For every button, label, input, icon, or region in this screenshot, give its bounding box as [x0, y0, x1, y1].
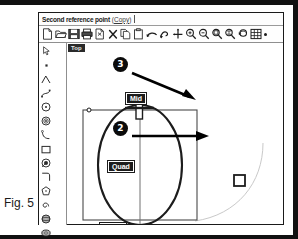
- drawing-viewport[interactable]: Top: [67, 43, 283, 224]
- zoom-previous-icon[interactable]: [236, 27, 249, 41]
- command-option-copy[interactable]: (Copy): [110, 16, 132, 23]
- undo-arrow-icon[interactable]: [145, 27, 158, 41]
- page-frame-top: [0, 0, 298, 5]
- zoom-in-icon[interactable]: [184, 27, 197, 41]
- print-icon[interactable]: [80, 27, 93, 41]
- circle-diameter-icon[interactable]: [39, 156, 53, 170]
- figure-page: Fig. 5 Second reference point (Copy): [0, 0, 298, 239]
- ellipse-icon[interactable]: [39, 114, 53, 128]
- grid-snap-icon[interactable]: [249, 27, 262, 41]
- fillet-corner-icon[interactable]: [39, 170, 53, 184]
- figure-caption: Fig. 5: [4, 196, 34, 210]
- command-prompt-text: Second reference point: [39, 16, 110, 23]
- delete-x-icon[interactable]: [106, 27, 119, 41]
- construction-arc: [195, 143, 263, 221]
- control-point-marker: [87, 108, 91, 112]
- redo-arrow-icon[interactable]: [158, 27, 171, 41]
- cad-geometry: [67, 43, 283, 224]
- circle-center-icon[interactable]: [39, 100, 53, 114]
- select-arrow-icon[interactable]: [39, 44, 53, 58]
- tool-palette: [39, 43, 67, 225]
- zoom-extents-icon[interactable]: [223, 27, 236, 41]
- new-file-icon[interactable]: [41, 27, 54, 41]
- arc-icon[interactable]: [39, 128, 53, 142]
- zoom-out-icon[interactable]: [197, 27, 210, 41]
- pan-move-icon[interactable]: [171, 27, 184, 41]
- paren-close: ): [129, 16, 131, 23]
- snap-tooltip-mid: Mid: [126, 93, 146, 104]
- polyline-icon[interactable]: [39, 72, 53, 86]
- page-frame-right: [293, 0, 298, 239]
- sphere-icon[interactable]: [39, 212, 53, 226]
- open-folder-icon[interactable]: [54, 27, 67, 41]
- main-toolbar: [39, 26, 283, 43]
- zoom-window-icon[interactable]: [210, 27, 223, 41]
- copy-icon[interactable]: [119, 27, 132, 41]
- spiral-icon[interactable]: [39, 198, 53, 212]
- cut-icon[interactable]: [93, 27, 106, 41]
- point-icon[interactable]: [39, 58, 53, 72]
- polygon-icon[interactable]: [39, 184, 53, 198]
- text-cursor: [134, 15, 135, 23]
- save-disk-icon[interactable]: [67, 27, 80, 41]
- quad-snap-marker: [232, 173, 248, 189]
- command-option-label: Copy: [114, 16, 129, 23]
- command-prompt-bar: Second reference point (Copy): [39, 13, 283, 26]
- callout-balloon-3: 3: [113, 57, 128, 72]
- snap-tooltip-quad-bottom: Quad: [100, 223, 126, 224]
- paste-icon[interactable]: [132, 27, 145, 41]
- curve-icon[interactable]: [39, 86, 53, 100]
- rectangle-icon[interactable]: [39, 142, 53, 156]
- cad-application-window: Second reference point (Copy): [38, 12, 284, 225]
- callout-balloon-2: 2: [113, 121, 128, 136]
- more-options-icon[interactable]: [262, 27, 269, 41]
- snap-tooltip-quad-center: Quad: [108, 161, 134, 172]
- torus-icon[interactable]: [39, 226, 53, 239]
